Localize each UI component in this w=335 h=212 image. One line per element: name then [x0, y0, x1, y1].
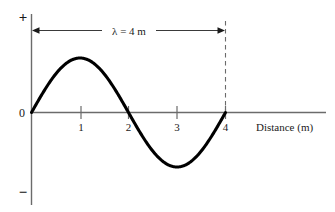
x-tick-label-4: 4	[223, 121, 229, 133]
x-tick-label-2: 2	[126, 121, 132, 133]
origin-label: 0	[19, 106, 25, 120]
x-tick-label-1: 1	[78, 121, 84, 133]
negative-sign-label: −	[19, 184, 28, 200]
wave-diagram-figure: 1 2 3 4 0 + − Distance (m) λ = 4 m	[0, 0, 335, 212]
plot-background	[0, 0, 335, 212]
x-axis-title: Distance (m)	[256, 121, 313, 134]
positive-sign-label: +	[19, 9, 28, 25]
wave-plot-svg: 1 2 3 4 0 + − Distance (m) λ = 4 m	[0, 0, 335, 212]
wavelength-label: λ = 4 m	[112, 25, 146, 37]
x-tick-label-3: 3	[174, 121, 180, 133]
